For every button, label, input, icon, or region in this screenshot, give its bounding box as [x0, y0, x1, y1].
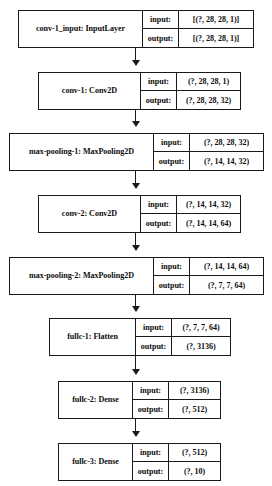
layer-node-8: fullc-3: Denseinput:(?, 512)output:(?, 1…: [58, 443, 221, 481]
layer-output-row: output:(?, 3136): [136, 337, 230, 355]
layer-output-label: output:: [154, 276, 189, 294]
layer-output-label: output:: [154, 152, 189, 170]
layer-input-shape: (?, 28, 28, 32): [189, 134, 263, 151]
layer-output-shape: (?, 3136): [171, 337, 230, 355]
layer-output-label: output:: [133, 400, 168, 418]
layer-input-shape: (?, 512): [168, 444, 220, 461]
layer-output-shape: (?, 14, 14, 32): [189, 152, 263, 170]
layer-output-shape: (?, 14, 14, 64): [176, 214, 240, 232]
layer-output-label: output:: [143, 29, 178, 47]
layer-input-label: input:: [136, 319, 171, 336]
layer-name: max-pooling-1: MaxPooling2D: [10, 134, 153, 170]
layer-output-row: output:(?, 7, 7, 64): [154, 276, 263, 294]
layer-name: fullc-2: Dense: [59, 382, 132, 418]
layer-output-shape: (?, 512): [168, 400, 220, 418]
layer-io-table: input:(?, 14, 14, 32)output:(?, 14, 14, …: [140, 196, 240, 232]
layer-io-table: input:(?, 512)output:(?, 10): [132, 444, 220, 480]
layer-output-row: output:(?, 14, 14, 32): [154, 152, 263, 170]
layer-output-row: output:(?, 512): [133, 400, 220, 418]
layer-input-row: input:(?, 7, 7, 64): [136, 319, 230, 337]
layer-input-label: input:: [133, 382, 168, 399]
layer-name: max-pooling-2: MaxPooling2D: [10, 258, 153, 294]
layer-output-shape: (?, 10): [168, 462, 220, 480]
layer-output-label: output:: [141, 214, 176, 232]
edge-arrowhead-1: [132, 60, 140, 66]
layer-node-4: conv-2: Conv2Dinput:(?, 14, 14, 32)outpu…: [38, 195, 241, 233]
layer-output-shape: (?, 28, 28, 32): [176, 91, 240, 109]
layer-input-row: input:(?, 14, 14, 64): [154, 258, 263, 276]
layer-io-table: input:(?, 28, 28, 32)output:(?, 14, 14, …: [153, 134, 263, 170]
layer-name: conv-2: Conv2D: [39, 196, 140, 232]
layer-io-table: input:(?, 14, 14, 64)output:(?, 7, 7, 64…: [153, 258, 263, 294]
model-architecture-diagram: conv-1_input: InputLayerinput:[(?, 28, 2…: [0, 0, 272, 486]
layer-output-label: output:: [141, 91, 176, 109]
layer-input-shape: (?, 28, 28, 1): [176, 73, 240, 90]
layer-output-row: output:[(?, 28, 28, 1)]: [143, 29, 253, 47]
edge-arrowhead-2: [132, 121, 140, 127]
layer-output-row: output:(?, 28, 28, 32): [141, 91, 240, 109]
layer-input-shape: (?, 7, 7, 64): [171, 319, 230, 336]
layer-node-6: fullc-1: Flatteninput:(?, 7, 7, 64)outpu…: [49, 318, 231, 356]
layer-input-row: input:(?, 28, 28, 1): [141, 73, 240, 91]
layer-output-shape: (?, 7, 7, 64): [189, 276, 263, 294]
layer-output-row: output:(?, 14, 14, 64): [141, 214, 240, 232]
layer-input-shape: [(?, 28, 28, 1)]: [178, 11, 253, 28]
layer-node-3: max-pooling-1: MaxPooling2Dinput:(?, 28,…: [9, 133, 264, 171]
layer-name: conv-1: Conv2D: [39, 73, 140, 109]
layer-input-row: input:[(?, 28, 28, 1)]: [143, 11, 253, 29]
layer-input-label: input:: [141, 73, 176, 90]
layer-input-row: input:(?, 512): [133, 444, 220, 462]
layer-input-label: input:: [154, 258, 189, 275]
layer-io-table: input:[(?, 28, 28, 1)]output:[(?, 28, 28…: [142, 11, 253, 47]
layer-input-shape: (?, 14, 14, 64): [189, 258, 263, 275]
edge-arrowhead-3: [132, 183, 140, 189]
layer-name: conv-1_input: InputLayer: [19, 11, 142, 47]
layer-node-7: fullc-2: Denseinput:(?, 3136)output:(?, …: [58, 381, 221, 419]
layer-input-row: input:(?, 28, 28, 32): [154, 134, 263, 152]
layer-node-5: max-pooling-2: MaxPooling2Dinput:(?, 14,…: [9, 257, 264, 295]
edge-arrowhead-5: [132, 306, 140, 312]
layer-output-label: output:: [133, 462, 168, 480]
layer-input-label: input:: [154, 134, 189, 151]
layer-name: fullc-3: Dense: [59, 444, 132, 480]
layer-input-row: input:(?, 3136): [133, 382, 220, 400]
layer-node-2: conv-1: Conv2Dinput:(?, 28, 28, 1)output…: [38, 72, 241, 110]
layer-input-row: input:(?, 14, 14, 32): [141, 196, 240, 214]
layer-node-1: conv-1_input: InputLayerinput:[(?, 28, 2…: [18, 10, 254, 48]
layer-output-row: output:(?, 10): [133, 462, 220, 480]
edge-arrowhead-7: [132, 431, 140, 437]
layer-io-table: input:(?, 7, 7, 64)output:(?, 3136): [135, 319, 230, 355]
layer-io-table: input:(?, 3136)output:(?, 512): [132, 382, 220, 418]
layer-input-shape: (?, 3136): [168, 382, 220, 399]
layer-output-label: output:: [136, 337, 171, 355]
layer-input-label: input:: [143, 11, 178, 28]
layer-input-label: input:: [141, 196, 176, 213]
layer-io-table: input:(?, 28, 28, 1)output:(?, 28, 28, 3…: [140, 73, 240, 109]
layer-input-shape: (?, 14, 14, 32): [176, 196, 240, 213]
layer-output-shape: [(?, 28, 28, 1)]: [178, 29, 253, 47]
edge-arrowhead-6: [132, 369, 140, 375]
edge-arrowhead-4: [132, 245, 140, 251]
layer-input-label: input:: [133, 444, 168, 461]
layer-name: fullc-1: Flatten: [50, 319, 135, 355]
